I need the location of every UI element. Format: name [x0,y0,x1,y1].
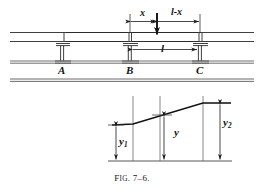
support-label-a: A [58,65,65,76]
influence-line-curve [112,103,231,125]
figure-drawing [0,0,264,195]
upper-slab-lines [10,33,254,42]
ordinate-y1-subscript: 1 [124,141,128,149]
column-support-B [122,44,139,64]
support-label-b: B [126,65,133,76]
dimension-label-span-l: l [161,43,164,54]
caption-number: . 7–6. [128,173,150,183]
caption-smallcaps: IG [120,175,128,183]
ground-double-line [10,79,254,81]
ordinate-y2-subscript: 2 [228,122,232,130]
girder-edges [64,33,202,42]
column-support-A [55,44,71,64]
dimension-label-l-minus-x: l-x [171,7,182,17]
ordinate-label-y: y [174,127,179,138]
ordinate-ticks [108,103,231,125]
ordinate-label-y2: y2 [223,117,232,128]
bottom-diagram-group [108,96,232,161]
column-support-C [192,44,209,64]
figure-caption: FIG. 7–6. [0,173,264,183]
support-label-c: C [196,65,203,76]
dimension-label-x: x [140,8,145,18]
figure-container: x l-x l A B C y1 y y2 FIG. 7–6. [0,0,264,195]
ordinate-y-base: y [174,126,179,138]
lower-slab-line [10,61,254,63]
ordinate-label-y1: y1 [119,136,128,147]
